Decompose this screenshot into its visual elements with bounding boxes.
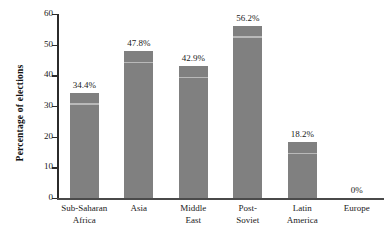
bar-highlight <box>70 103 99 104</box>
bar-middle-east[interactable] <box>179 66 208 198</box>
y-tick-label-40: 40 <box>44 68 53 81</box>
bar-value-latin-america: 18.2% <box>272 129 332 140</box>
bar-value-sub-saharan-africa: 34.4% <box>54 80 114 91</box>
x-category-label-europe: Europe <box>324 203 384 215</box>
bar-post-soviet[interactable] <box>233 26 262 198</box>
x-axis-line <box>57 198 384 200</box>
y-tick-label-20: 20 <box>44 130 53 143</box>
x-category-label-line: Africa <box>51 215 117 227</box>
x-category-label-line: Europe <box>324 203 384 215</box>
bar-highlight <box>124 62 153 63</box>
bar-sub-saharan-africa[interactable] <box>70 93 99 198</box>
y-tick-label-10: 10 <box>44 160 53 173</box>
bar-latin-america[interactable] <box>288 142 317 198</box>
x-category-label-line: America <box>269 215 335 227</box>
plot-area: 0 10 20 30 40 50 60 <box>57 14 384 198</box>
bar-highlight <box>233 36 262 37</box>
y-tick-label-30: 30 <box>44 99 53 112</box>
bar-asia[interactable] <box>124 51 153 198</box>
y-tick-label-50: 50 <box>44 38 53 51</box>
bar-value-post-soviet: 56.2% <box>218 13 278 24</box>
y-axis-line <box>57 14 59 198</box>
bar-value-asia: 47.8% <box>109 38 169 49</box>
bar-highlight <box>179 77 208 78</box>
bar-value-middle-east: 42.9% <box>163 53 223 64</box>
bar-chart: Percentage of elections 0 10 20 30 40 50 <box>0 0 384 248</box>
bar-highlight <box>288 153 317 154</box>
y-tick-label-60: 60 <box>44 7 53 20</box>
y-axis-title: Percentage of elections <box>15 33 25 193</box>
bar-value-europe: 0% <box>327 185 384 196</box>
